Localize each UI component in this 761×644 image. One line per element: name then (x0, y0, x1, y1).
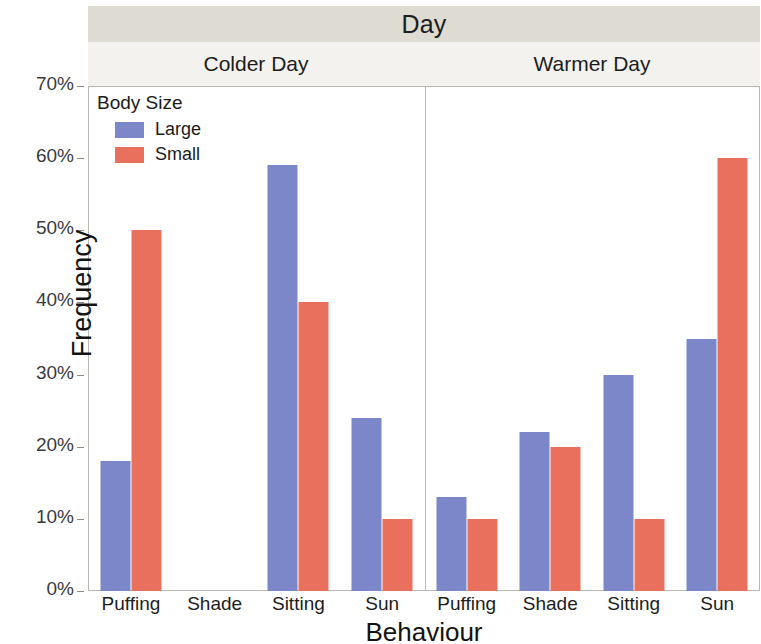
bar-large[interactable] (352, 418, 382, 591)
bar-pair (268, 86, 329, 591)
bar-group (592, 86, 676, 591)
bar-group (257, 86, 341, 591)
y-tick-mark (77, 591, 84, 592)
bar-group (340, 86, 424, 591)
facet-header-colder-day: Colder Day (88, 42, 424, 86)
bar-large[interactable] (436, 497, 466, 591)
bar-large[interactable] (100, 461, 130, 591)
y-tick-mark (77, 158, 84, 159)
y-tick-label: 0% (47, 578, 74, 600)
facet-group-label: Day (401, 10, 446, 39)
bar-large[interactable] (687, 339, 717, 592)
y-tick-mark (77, 519, 84, 520)
bar-pair (352, 86, 413, 591)
legend-label-large: Large (155, 119, 201, 140)
bar-small[interactable] (467, 519, 497, 591)
y-tick: 20% (0, 447, 84, 448)
legend-item-small[interactable]: Small (115, 144, 257, 165)
bar-pair (603, 86, 664, 591)
bar-small[interactable] (718, 158, 748, 591)
y-tick: 70% (0, 86, 84, 87)
facet-title-colder-day: Colder Day (203, 52, 308, 76)
bar-chart: Day Colder Day Warmer Day 0%10%20%30%40%… (0, 0, 761, 644)
bar-pair (520, 86, 581, 591)
y-tick-mark (77, 86, 84, 87)
bar-small[interactable] (551, 447, 581, 591)
bar-group (509, 86, 593, 591)
legend-title: Body Size (97, 92, 257, 114)
y-tick-label: 70% (36, 73, 74, 95)
y-tick-label: 20% (36, 434, 74, 456)
bar-small[interactable] (383, 519, 413, 591)
bar-pair (436, 86, 497, 591)
y-tick-label: 60% (36, 145, 74, 167)
legend: Body Size Large Small (97, 92, 257, 169)
bar-group-container-warmer-day (425, 86, 759, 591)
y-tick-label: 10% (36, 506, 74, 528)
bar-small[interactable] (299, 302, 329, 591)
facet-group-band: Day (88, 6, 760, 42)
bar-pair (687, 86, 748, 591)
y-tick: 60% (0, 158, 84, 159)
bar-group (676, 86, 760, 591)
bar-small[interactable] (634, 519, 664, 591)
legend-swatch-large-icon (115, 122, 144, 138)
legend-label-small: Small (155, 144, 200, 165)
facet-title-warmer-day: Warmer Day (533, 52, 650, 76)
bar-small[interactable] (131, 230, 161, 591)
bar-group (425, 86, 509, 591)
bar-large[interactable] (520, 432, 550, 591)
legend-swatch-small-icon (115, 147, 144, 163)
y-tick-mark (77, 447, 84, 448)
bar-large[interactable] (603, 375, 633, 591)
x-axis-title: Behaviour (88, 617, 760, 644)
y-tick: 10% (0, 519, 84, 520)
y-tick: 0% (0, 591, 84, 592)
facet-label-band: Colder Day Warmer Day (88, 42, 760, 86)
bar-large[interactable] (268, 165, 298, 591)
legend-item-large[interactable]: Large (115, 119, 257, 140)
facet-panel-warmer-day (425, 86, 759, 591)
facet-header-warmer-day: Warmer Day (424, 42, 760, 86)
